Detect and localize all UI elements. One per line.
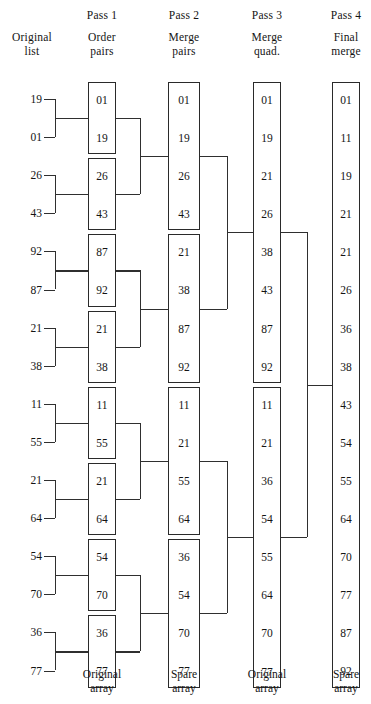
original-list-value: 43 (6, 207, 42, 219)
pass4-value: 19 (333, 170, 359, 182)
pass1-to-pass2-bracket (116, 499, 140, 500)
pass4-value: 77 (333, 589, 359, 601)
pass1-box: 2643 (88, 158, 116, 230)
pass1-to-pass2-bracket (116, 651, 140, 652)
pass2-box: 36547077 (168, 539, 200, 687)
pass2-value: 21 (169, 437, 199, 449)
footer-pass3: Original array (233, 668, 301, 695)
pass2-value: 54 (169, 589, 199, 601)
pass1-to-pass2-bracket (116, 270, 140, 271)
original-list-stub (44, 290, 55, 291)
pass1-value: 36 (89, 627, 115, 639)
pass2-value: 01 (169, 94, 199, 106)
original-list-value: 64 (6, 512, 42, 524)
original-list-value: 92 (6, 245, 42, 257)
pass1-value: 21 (89, 323, 115, 335)
pass1-to-pass2-bracket (140, 613, 168, 614)
pass3-value: 21 (254, 437, 280, 449)
original-list-stub (44, 251, 55, 252)
pass2-value: 38 (169, 284, 199, 296)
original-list-value: 77 (6, 665, 42, 677)
pass3-value: 70 (254, 627, 280, 639)
pass1-value: 64 (89, 513, 115, 525)
pass2-to-pass3-bracket (227, 232, 253, 233)
pass4-box: 01111921212636384354556470778792 (332, 82, 360, 688)
pass2-to-pass3-bracket (200, 461, 227, 462)
original-list-stub (44, 404, 55, 405)
pass1-value: 55 (89, 437, 115, 449)
pass4-value: 38 (333, 361, 359, 373)
pass3-to-pass4-bracket (307, 385, 332, 386)
pass1-value: 43 (89, 208, 115, 220)
original-list-stub (44, 442, 55, 443)
pass1-box: 5470 (88, 539, 116, 611)
pass3-value: 43 (254, 284, 280, 296)
pair-bracket-out (55, 270, 88, 271)
pass4-value: 55 (333, 475, 359, 487)
original-list-stub (44, 594, 55, 595)
pass4-value: 43 (333, 399, 359, 411)
original-list-value: 21 (6, 322, 42, 334)
pass1-value: 87 (89, 246, 115, 258)
original-list-value: 01 (6, 131, 42, 143)
original-list-stub (44, 175, 55, 176)
original-list-stub (44, 366, 55, 367)
pass3-to-pass4-bracket (281, 232, 307, 233)
original-list-value: 36 (6, 626, 42, 638)
pass1-box: 2138 (88, 311, 116, 383)
original-list-value: 70 (6, 588, 42, 600)
pass2-value: 19 (169, 132, 199, 144)
original-list-stub (44, 137, 55, 138)
pass1-to-pass2-bracket (116, 347, 140, 348)
pass4-value: 54 (333, 437, 359, 449)
pass2-box: 01192643 (168, 82, 200, 230)
pass2-value: 64 (169, 513, 199, 525)
original-list-value: 87 (6, 284, 42, 296)
pair-bracket-out (55, 575, 88, 576)
pass1-value: 54 (89, 551, 115, 563)
original-list-value: 26 (6, 169, 42, 181)
pass1-box: 0119 (88, 82, 116, 154)
pass1-box: 8792 (88, 234, 116, 306)
pass4-value: 11 (333, 132, 359, 144)
pass3-value: 26 (254, 208, 280, 220)
pass2-box: 11215564 (168, 387, 200, 535)
pass1-value: 21 (89, 475, 115, 487)
pass1-value: 70 (89, 589, 115, 601)
original-list-stub (44, 328, 55, 329)
original-list-stub (44, 213, 55, 214)
original-list-value: 19 (6, 93, 42, 105)
original-list-stub (44, 556, 55, 557)
pass1-value: 01 (89, 94, 115, 106)
pass4-value: 01 (333, 94, 359, 106)
mergesort-diagram: Original listPass 1Order pairsPass 2Merg… (0, 0, 371, 704)
header-pass1-desc: Order pairs (68, 30, 136, 58)
footer-pass2: Spare array (150, 668, 218, 695)
pass1-box: 2164 (88, 463, 116, 535)
original-list-value: 55 (6, 436, 42, 448)
pass3-value: 19 (254, 132, 280, 144)
header-pass1-pass: Pass 1 (70, 8, 134, 22)
pass2-box: 21388792 (168, 234, 200, 382)
pass3-value: 38 (254, 246, 280, 258)
pass2-value: 70 (169, 627, 199, 639)
pass3-to-pass4-bracket (281, 537, 307, 538)
header-original-list: Original list (4, 30, 60, 58)
pass2-value: 36 (169, 551, 199, 563)
pass2-to-pass3-bracket (200, 309, 227, 310)
original-list-stub (44, 99, 55, 100)
pass1-value: 26 (89, 170, 115, 182)
pass4-value: 36 (333, 323, 359, 335)
header-pass2-desc: Merge pairs (150, 30, 218, 58)
original-list-value: 38 (6, 360, 42, 372)
pass4-value: 64 (333, 513, 359, 525)
pass3-box: 0119212638438792 (253, 82, 281, 383)
pair-bracket-out (55, 651, 88, 652)
pass1-value: 92 (89, 284, 115, 296)
original-list-stub (44, 632, 55, 633)
pass3-value: 21 (254, 170, 280, 182)
pass4-value: 87 (333, 627, 359, 639)
pair-bracket-out (55, 499, 88, 500)
pass4-value: 70 (333, 551, 359, 563)
pass2-value: 26 (169, 170, 199, 182)
